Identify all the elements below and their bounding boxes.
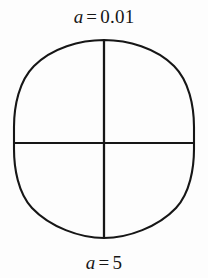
parameter-label-top: a=0.01 xyxy=(0,6,208,28)
petal-top-right xyxy=(104,40,194,143)
equals-sign-top: = xyxy=(83,6,100,27)
four-petal-curve xyxy=(0,32,208,246)
parameter-symbol-bottom: a xyxy=(86,252,96,273)
equals-sign-bottom: = xyxy=(96,252,113,273)
petal-bottom-left xyxy=(14,143,104,238)
parameter-symbol-top: a xyxy=(74,6,84,27)
parameter-value-top: 0.01 xyxy=(100,6,134,27)
petal-top-left xyxy=(14,40,104,143)
figure-root: a=0.01 a=5 xyxy=(0,0,208,278)
petal-bottom-right xyxy=(104,143,194,238)
plot-area xyxy=(0,32,208,246)
parameter-label-bottom: a=5 xyxy=(0,252,208,274)
parameter-value-bottom: 5 xyxy=(112,252,122,273)
